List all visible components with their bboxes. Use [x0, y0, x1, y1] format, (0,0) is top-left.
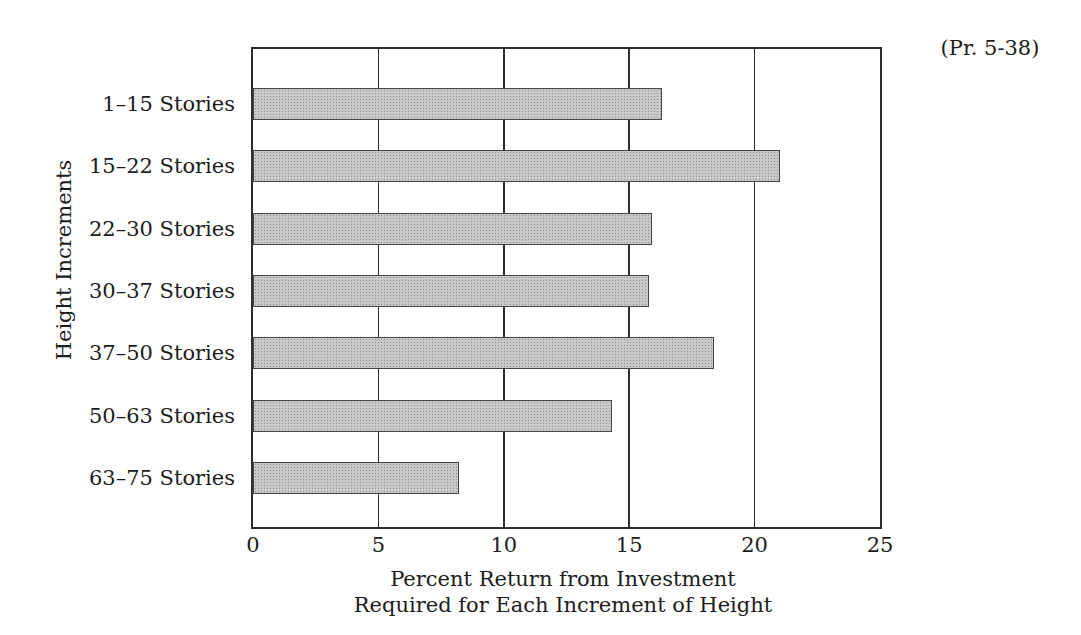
x-tick-label-20: 20: [741, 533, 768, 558]
category-label-2: 22–30 Stories: [60, 215, 235, 243]
bar-4: [253, 337, 714, 369]
bar-0: [253, 88, 662, 120]
category-label-5: 50–63 Stories: [60, 402, 235, 430]
x-tick-label-5: 5: [372, 533, 385, 558]
bar-6: [253, 462, 459, 494]
y-axis-title: Height Increments: [52, 160, 76, 361]
problem-number-label: (Pr. 5-38): [941, 36, 1040, 60]
x-axis-title: Percent Return from Investment Required …: [354, 566, 772, 618]
category-label-1: 15–22 Stories: [60, 152, 235, 180]
x-tick-label-0: 0: [246, 533, 259, 558]
category-label-6: 63–75 Stories: [60, 464, 235, 492]
category-label-0: 1–15 Stories: [60, 90, 235, 118]
category-label-3: 30–37 Stories: [60, 277, 235, 305]
x-axis-title-line-2: Required for Each Increment of Height: [354, 592, 772, 618]
x-tick-label-15: 15: [616, 533, 643, 558]
bar-chart-figure: (Pr. 5-38) Height Increments 1–15 Storie…: [0, 0, 1081, 635]
bar-1: [253, 150, 780, 182]
x-tick-label-25: 25: [867, 533, 894, 558]
x-axis-title-line-1: Percent Return from Investment: [354, 566, 772, 592]
bar-3: [253, 275, 649, 307]
category-label-4: 37–50 Stories: [60, 339, 235, 367]
x-tick-label-10: 10: [490, 533, 517, 558]
bar-2: [253, 213, 652, 245]
gridline-x-20: [754, 49, 756, 527]
bar-5: [253, 400, 612, 432]
plot-area: [251, 47, 882, 529]
